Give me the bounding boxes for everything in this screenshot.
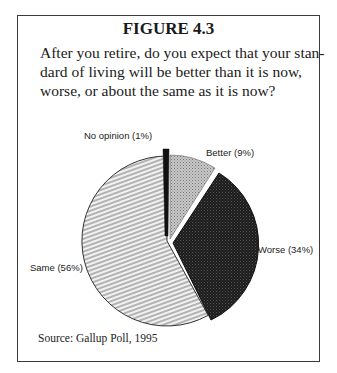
pie-chart — [0, 0, 337, 373]
label-worse: Worse (34%) — [258, 244, 313, 255]
source-note: Source: Gallup Poll, 1995 — [38, 332, 157, 344]
label-better: Better (9%) — [206, 147, 254, 158]
label-same: Same (56%) — [30, 262, 83, 273]
label-no-opinion: No opinion (1%) — [84, 130, 152, 141]
